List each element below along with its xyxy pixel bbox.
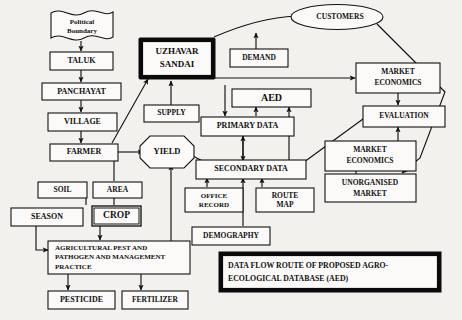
node-evaluation: EVALUATION — [363, 106, 445, 127]
caption-line-1: DATA FLOW ROUTE OF PROPOSED AGRO- — [228, 261, 389, 270]
practice-label-2: PATHOGEN AND MANAGEMENT — [55, 253, 166, 261]
political-boundary-label-1: Political — [70, 18, 95, 26]
market-economics-bottom-label-2: ECONOMICS — [346, 156, 393, 165]
node-soil: SOIL — [38, 182, 87, 198]
node-market-economics-bottom: MARKET ECONOMICS — [325, 141, 416, 171]
node-yield: YIELD — [140, 136, 194, 168]
market-economics-top-label-2: ECONOMICS — [374, 78, 421, 87]
political-boundary-label-2: Boundary — [67, 27, 97, 35]
office-record-label-1: OFFICE — [201, 192, 228, 200]
node-season: SEASON — [11, 208, 83, 226]
node-customers: CUSTOMERS — [291, 5, 383, 30]
market-economics-bottom-label-1: MARKET — [353, 145, 387, 154]
route-map-label-1: ROUTE — [272, 191, 299, 200]
node-secondary-data: SECONDARY DATA — [196, 160, 306, 179]
node-aed: AED — [232, 89, 311, 107]
data-flow-diagram: Political Boundary TALUK PANCHAYAT VILLA… — [0, 0, 462, 320]
primary-data-label: PRIMARY DATA — [217, 121, 279, 130]
farmer-label: FARMER — [67, 147, 102, 156]
customers-label: CUSTOMERS — [316, 12, 363, 21]
node-practice: AGRICULTURAL PEST AND PATHOGEN AND MANAG… — [48, 241, 190, 274]
node-demography: DEMOGRAPHY — [192, 227, 270, 245]
node-unorganised-market: UNORGANISED MARKET — [325, 174, 416, 202]
unorganised-market-label-2: MARKET — [353, 189, 387, 198]
node-political-boundary: Political Boundary — [51, 11, 113, 40]
crop-label: CROP — [103, 210, 130, 220]
secondary-data-label: SECONDARY DATA — [214, 164, 288, 173]
uzhavar-sandai-label-2: SANDAI — [160, 59, 195, 69]
diagram-canvas: Political Boundary TALUK PANCHAYAT VILLA… — [0, 0, 462, 320]
node-supply: SUPPLY — [144, 105, 199, 122]
node-primary-data: PRIMARY DATA — [201, 117, 294, 136]
unorganised-market-label-1: UNORGANISED — [342, 178, 399, 187]
evaluation-label: EVALUATION — [379, 111, 429, 120]
node-route-map: ROUTE MAP — [256, 188, 314, 212]
node-farmer: FARMER — [50, 144, 118, 161]
node-panchayat: PANCHAYAT — [42, 83, 121, 100]
demography-label: DEMOGRAPHY — [203, 231, 259, 240]
node-office-record: OFFICE RECORD — [185, 188, 243, 212]
node-village: VILLAGE — [48, 113, 117, 131]
soil-label: SOIL — [54, 185, 72, 194]
season-label: SEASON — [31, 212, 63, 221]
node-crop: CROP — [92, 206, 141, 226]
uzhavar-sandai-label-1: UZHAVAR — [155, 46, 199, 56]
node-market-economics-top: MARKET ECONOMICS — [356, 63, 440, 93]
node-pesticide: PESTICIDE — [48, 291, 115, 309]
practice-label-1: AGRICULTURAL PEST AND — [55, 244, 147, 252]
node-uzhavar-sandai: UZHAVAR SANDAI — [139, 38, 215, 79]
village-label: VILLAGE — [64, 117, 101, 126]
practice-label-3: PRACTICE — [55, 263, 92, 271]
fertilizer-label: FERTILIZER — [132, 295, 179, 304]
node-demand: DEMAND — [230, 49, 288, 67]
taluk-label: TALUK — [68, 56, 97, 65]
node-fertilizer: FERTILIZER — [122, 291, 188, 309]
figure-caption-box: DATA FLOW ROUTE OF PROPOSED AGRO- ECOLOG… — [219, 252, 441, 292]
route-map-label-2: MAP — [276, 200, 293, 209]
area-label: AREA — [107, 185, 129, 194]
supply-label: SUPPLY — [157, 108, 186, 117]
market-economics-top-label-1: MARKET — [381, 67, 415, 76]
yield-label: YIELD — [154, 146, 181, 156]
panchayat-label: PANCHAYAT — [57, 87, 106, 96]
pesticide-label: PESTICIDE — [60, 295, 103, 304]
demand-label: DEMAND — [242, 53, 276, 62]
node-taluk: TALUK — [50, 52, 113, 70]
office-record-label-2: RECORD — [199, 201, 229, 209]
aed-label: AED — [261, 92, 282, 103]
node-area: AREA — [93, 182, 142, 198]
caption-line-2: ECOLOGICAL DATABASE (AED) — [228, 274, 349, 283]
